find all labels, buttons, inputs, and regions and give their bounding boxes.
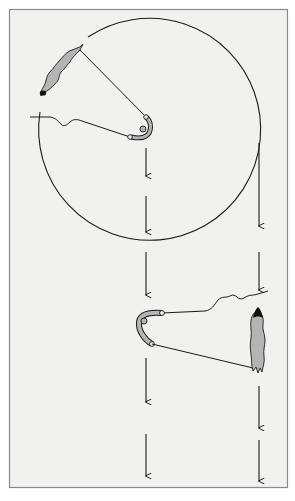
- diagram-figure: [0, 0, 295, 501]
- lower-organism: [250, 307, 265, 373]
